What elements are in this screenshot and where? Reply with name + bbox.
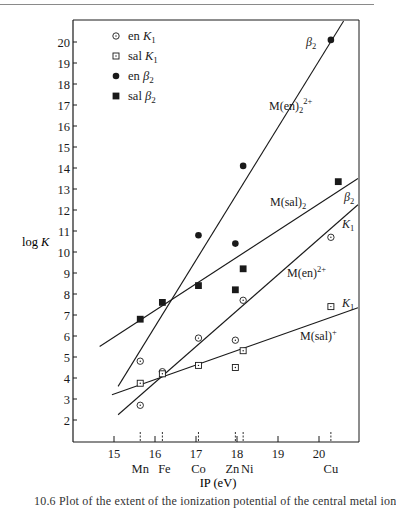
line-label: K1 <box>341 296 354 312</box>
marker-center-dot <box>235 367 236 368</box>
legend-subscript: 1 <box>151 35 156 45</box>
marker-center-dot <box>330 237 331 238</box>
y-tick-label: 19 <box>58 57 71 71</box>
y-tick-label: 17 <box>58 99 71 113</box>
line-label: M(en)2+ <box>287 264 326 280</box>
x-tick-label: 19 <box>272 447 285 461</box>
y-axis-ticks: 234567891011121314151617181920 <box>58 36 78 428</box>
label-subscript: 2 <box>299 105 303 115</box>
x-tick-label: 15 <box>108 447 121 461</box>
label-main: β <box>343 190 350 204</box>
legend-item-label: en β2 <box>128 69 154 85</box>
metal-label: Fe <box>158 462 171 476</box>
legend-item-label: en K1 <box>128 29 156 45</box>
legend-subscript: 2 <box>149 75 154 85</box>
label-main: M(sal) <box>270 195 302 209</box>
marker-center-dot <box>115 55 116 56</box>
y-tick-label: 4 <box>64 372 71 386</box>
filled-circle-marker <box>240 163 247 170</box>
line-label: β2 <box>343 190 354 206</box>
fit-line <box>112 308 358 395</box>
metal-label: Zn <box>225 462 240 476</box>
y-tick-label: 7 <box>64 309 70 323</box>
label-subscript: 1 <box>350 223 354 233</box>
y-tick-label: 2 <box>64 414 70 428</box>
marker-center-dot <box>162 373 163 374</box>
metal-label: Ni <box>241 462 254 476</box>
filled-square-marker <box>232 286 239 293</box>
legend-ligand: en <box>128 29 143 43</box>
y-label-symbol: K <box>40 235 50 249</box>
legend: en K1sal K1en β2sal β2 <box>113 29 158 105</box>
data-points <box>137 37 342 409</box>
y-tick-label: 10 <box>58 246 71 260</box>
label-main: M(en) <box>287 266 317 280</box>
filled-circle-marker <box>232 240 239 247</box>
legend-item-label: sal β2 <box>128 89 156 105</box>
line-label: M(en)22+ <box>269 96 313 115</box>
x-axis-label: IP (eV) <box>200 476 237 490</box>
marker-center-dot <box>198 365 199 366</box>
marker-center-dot <box>115 35 116 36</box>
y-tick-label: 14 <box>58 162 71 176</box>
y-tick-label: 8 <box>64 288 70 302</box>
plot-frame <box>73 20 359 442</box>
label-subscript: 2 <box>350 196 354 206</box>
filled-square-marker <box>159 299 166 306</box>
filled-square-marker <box>195 282 202 289</box>
y-axis-label: log K <box>22 235 50 249</box>
filled-square-marker <box>240 265 247 272</box>
marker-center-dot <box>242 300 243 301</box>
metal-label: Mn <box>132 462 150 476</box>
y-tick-label: 16 <box>58 120 71 134</box>
metal-label: Co <box>191 462 206 476</box>
legend-ligand: sal <box>128 49 145 63</box>
label-main: β <box>305 35 312 49</box>
filled-square-marker <box>113 93 120 100</box>
y-tick-label: 5 <box>64 351 70 365</box>
y-label-text: log <box>22 235 41 249</box>
legend-ligand: en <box>128 69 143 83</box>
label-main: M(en) <box>269 99 299 113</box>
label-superscript: 2+ <box>317 264 326 274</box>
y-tick-label: 9 <box>64 267 70 281</box>
legend-item-label: sal K1 <box>128 49 158 65</box>
label-subscript: 2 <box>312 41 316 51</box>
label-subscript: 2 <box>302 201 306 211</box>
metal-label: Cu <box>324 462 339 476</box>
filled-square-marker <box>335 178 342 185</box>
y-tick-label: 15 <box>58 141 71 155</box>
figure-caption: 10.6 Plot of the extent of the ionizatio… <box>34 494 396 509</box>
line-label: M(sal)+ <box>300 327 337 343</box>
marker-center-dot <box>242 350 243 351</box>
x-tick-label: 18 <box>231 447 244 461</box>
line-label: β2 <box>305 35 316 51</box>
marker-center-dot <box>330 306 331 307</box>
x-tick-label: 20 <box>313 447 326 461</box>
marker-center-dot <box>140 361 141 362</box>
filled-circle-marker <box>113 73 120 80</box>
y-tick-label: 12 <box>58 204 71 218</box>
filled-circle-marker <box>328 37 335 44</box>
y-tick-label: 18 <box>58 78 71 92</box>
fit-line <box>118 205 358 415</box>
marker-center-dot <box>235 340 236 341</box>
marker-center-dot <box>140 383 141 384</box>
label-subscript: 1 <box>350 302 354 312</box>
label-superscript: 2+ <box>303 96 312 106</box>
y-tick-label: 20 <box>58 36 71 50</box>
label-superscript: + <box>332 327 337 337</box>
legend-subscript: 2 <box>151 95 156 105</box>
y-tick-label: 11 <box>58 225 70 239</box>
x-tick-label: 17 <box>190 447 203 461</box>
line-label: M(sal)2 <box>270 195 306 211</box>
marker-center-dot <box>198 337 199 338</box>
filled-square-marker <box>137 316 144 323</box>
marker-center-dot <box>140 405 141 406</box>
x-tick-label: 16 <box>149 447 162 461</box>
filled-circle-marker <box>195 232 202 239</box>
legend-subscript: 1 <box>153 55 158 65</box>
y-tick-label: 13 <box>58 183 71 197</box>
y-tick-label: 6 <box>64 330 70 344</box>
